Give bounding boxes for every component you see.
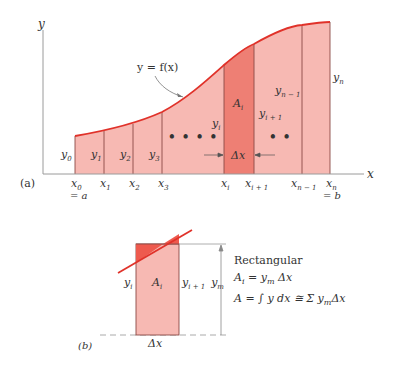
abscissa-x0-note: = a <box>70 190 88 201</box>
panel-a-label: (a) <box>20 177 35 190</box>
rect-right-label: yi + 1 <box>181 276 205 291</box>
formula-Ai: Ai = ym Δx <box>234 269 346 290</box>
x-axis-label: x <box>367 167 374 181</box>
ordinate-yn: yn <box>332 71 344 86</box>
rect-width-label: Δx <box>147 337 163 350</box>
curve-label-arrow <box>155 76 183 97</box>
rectangular-rule-formulas: Rectangular Ai = ym Δx A = ∫ y dx ≅ Σ ym… <box>234 252 346 311</box>
abscissa-xi1: xi + 1 <box>245 177 268 192</box>
rect-left-label: yi <box>123 276 132 291</box>
abscissa-x2: x2 <box>129 177 140 192</box>
abscissa-xn1: xn − 1 <box>291 177 317 192</box>
method-title: Rectangular <box>234 252 346 269</box>
ellipsis-right: • • <box>269 130 292 144</box>
abscissa-xi: xi <box>221 177 229 192</box>
ym-label: ym <box>210 276 224 291</box>
ellipsis-left: • • • • <box>168 130 218 144</box>
abscissa-x3: x3 <box>158 177 169 192</box>
panel-b-label: (b) <box>78 340 92 351</box>
ordinate-y0: y0 <box>60 148 72 163</box>
abscissa-xn-note: = b <box>323 190 341 201</box>
formula-A-integral: A = ∫ y dx ≅ Σ ymΔx <box>234 290 346 311</box>
y-axis-label: y <box>37 17 45 31</box>
curve-label: y = f(x) <box>136 61 178 74</box>
abscissa-x1: x1 <box>100 177 111 192</box>
delta-x-label: Δx <box>230 149 246 162</box>
